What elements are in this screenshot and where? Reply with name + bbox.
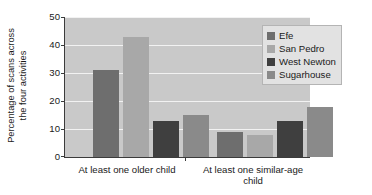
legend-swatch-efe (267, 32, 275, 40)
y-tick-label-50: 50 (38, 12, 60, 22)
bar-sanpedro-older (123, 37, 149, 157)
legend-item-efe: Efe (267, 29, 336, 42)
bar-efe-similar (217, 132, 243, 157)
x-category-label-older: At least one older child (66, 164, 188, 175)
y-tickmark-10 (61, 129, 65, 130)
legend-item-west-newton: West Newton (267, 55, 336, 68)
legend-label-sugarhouse: Sugarhouse (279, 69, 331, 80)
legend: Efe San Pedro West Newton Sugarhouse (262, 25, 342, 85)
y-axis-title-line1: Percentage of scans across (6, 28, 18, 143)
y-tickmark-20 (61, 101, 65, 102)
y-tick-label-10: 10 (38, 124, 60, 134)
legend-label-san-pedro: San Pedro (279, 43, 324, 54)
bar-sanpedro-similar (247, 135, 273, 157)
x-category-label-older-line1: At least one older child (66, 164, 188, 175)
y-tick-label-30: 30 (38, 68, 60, 78)
x-category-label-similar-line2: child (192, 175, 314, 186)
x-category-label-similar: At least one similar-age child (192, 164, 314, 186)
legend-label-efe: Efe (279, 30, 293, 41)
y-tickmark-30 (61, 73, 65, 74)
bar-westnewton-older (153, 121, 179, 157)
x-category-label-similar-line1: At least one similar-age (192, 164, 314, 175)
bar-westnewton-similar (277, 121, 303, 157)
y-axis-title: Percentage of scans across the four acti… (0, 0, 34, 170)
legend-swatch-san-pedro (267, 45, 275, 53)
y-tick-label-40: 40 (38, 40, 60, 50)
bar-sugarhouse-similar (307, 107, 333, 157)
y-tickmark-50 (61, 17, 65, 18)
x-axis-line (64, 157, 310, 158)
legend-item-sugarhouse: Sugarhouse (267, 68, 336, 81)
legend-item-san-pedro: San Pedro (267, 42, 336, 55)
x-tickmark-separator (185, 157, 186, 161)
y-axis-title-line2: the four activities (17, 28, 29, 143)
bar-efe-older (93, 70, 119, 157)
y-tick-label-0: 0 (38, 152, 60, 162)
gridline-50 (65, 17, 310, 18)
y-tickmark-40 (61, 45, 65, 46)
bar-chart: Percentage of scans across the four acti… (0, 0, 372, 195)
y-tick-label-20: 20 (38, 96, 60, 106)
legend-label-west-newton: West Newton (279, 56, 336, 67)
bar-sugarhouse-older (183, 115, 209, 157)
legend-swatch-west-newton (267, 58, 275, 66)
legend-swatch-sugarhouse (267, 71, 275, 79)
